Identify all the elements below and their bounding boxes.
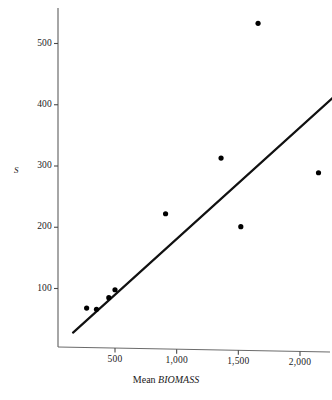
data-point [106,295,111,300]
regression-line-path [73,97,332,332]
x-tick-label: 1,500 [213,356,263,366]
x-axis-line [58,347,330,352]
y-axis-title: S [14,165,19,175]
regression-line [73,97,332,332]
x-axis-title-emphasis: BIOMASS [158,374,199,385]
data-point [163,211,168,216]
data-point [218,155,223,160]
y-tick-label: 100 [18,283,52,293]
scatter-plot-figure: 1002003004005005001,0001,5002,000 S Mean… [0,0,332,400]
y-tick-label: 400 [18,99,52,109]
data-point [94,307,99,312]
data-point [255,21,260,26]
data-point [84,306,89,311]
data-point [112,287,117,292]
y-tick-label: 200 [18,221,52,231]
x-tick-label: 1,000 [152,355,202,365]
data-point [316,170,321,175]
x-tick-label: 500 [90,354,140,364]
data-points-group [84,21,321,312]
x-axis-title: Mean BIOMASS [0,374,332,385]
x-tick-label: 2,000 [275,357,325,367]
y-tick-label: 500 [18,38,52,48]
axes-group [58,8,330,352]
y-tick-label: 300 [18,160,52,170]
x-axis-title-plain: Mean [133,374,158,385]
data-point [238,224,243,229]
plot-canvas [0,0,332,400]
